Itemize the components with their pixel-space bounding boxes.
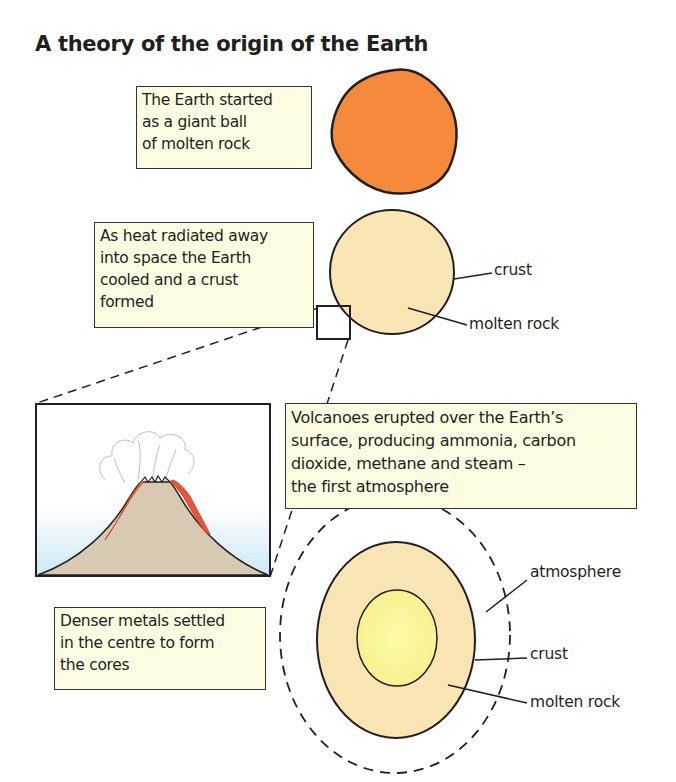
atmosphere-leader-line [486,580,527,612]
crust-leader-line-2 [475,658,527,660]
molten-earth-blob [332,70,457,194]
label-crust-1: crust [494,261,532,279]
crust-leader-line [454,273,492,279]
label-atmosphere: atmosphere [530,563,621,581]
caption-crust-forms: As heat radiated away into space the Ear… [94,222,314,328]
label-molten-rock-2: molten rock [530,693,620,711]
caption-volcanoes: Volcanoes erupted over the Earth’s surfa… [285,403,637,509]
core [357,590,437,686]
label-molten-rock-1: molten rock [469,315,559,333]
label-crust-2: crust [530,645,568,663]
caption-molten-ball: The Earth started as a giant ball of mol… [136,86,312,169]
caption-cores-form: Denser metals settled in the centre to f… [54,607,266,690]
